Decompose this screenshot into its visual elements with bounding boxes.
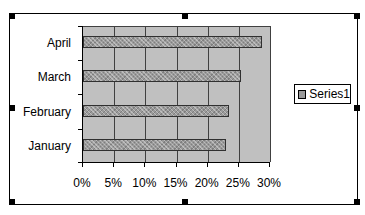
legend-entry-series1: Series1 <box>309 87 350 101</box>
y-axis-tick <box>78 60 82 61</box>
bar-january[interactable] <box>83 139 226 151</box>
plot-area[interactable] <box>82 26 270 163</box>
x-axis-tick-label: 20% <box>195 176 219 190</box>
x-axis-tick <box>238 163 239 167</box>
category-label-january: January <box>28 139 71 153</box>
x-axis-tick-label: 15% <box>163 176 187 190</box>
y-axis-tick <box>78 26 82 27</box>
resize-handle-middle-right[interactable] <box>354 105 360 111</box>
value-gridline <box>270 26 271 162</box>
resize-handle-top-middle[interactable] <box>182 13 188 19</box>
x-axis-tick-label: 5% <box>104 176 121 190</box>
resize-handle-bottom-middle[interactable] <box>182 199 188 205</box>
x-axis-tick <box>82 163 83 167</box>
bar-february[interactable] <box>83 105 229 117</box>
x-axis-tick-label: 30% <box>257 176 281 190</box>
category-label-april: April <box>47 36 71 50</box>
resize-handle-top-left[interactable] <box>9 13 15 19</box>
category-label-march: March <box>38 70 71 84</box>
legend-swatch-icon <box>298 90 306 99</box>
y-axis-tick <box>78 129 82 130</box>
legend[interactable]: Series1 <box>294 84 351 104</box>
x-axis-tick <box>176 163 177 167</box>
resize-handle-bottom-right[interactable] <box>354 199 360 205</box>
bar-march[interactable] <box>83 70 241 82</box>
x-axis-tick <box>269 163 270 167</box>
x-axis-tick <box>113 163 114 167</box>
x-axis-tick <box>207 163 208 167</box>
resize-handle-middle-left[interactable] <box>9 105 15 111</box>
bar-april[interactable] <box>83 36 262 48</box>
x-axis-tick-label: 25% <box>226 176 250 190</box>
x-axis-tick <box>144 163 145 167</box>
y-axis-tick <box>78 94 82 95</box>
x-axis-tick-label: 10% <box>132 176 156 190</box>
resize-handle-bottom-left[interactable] <box>9 199 15 205</box>
x-axis-tick-label: 0% <box>73 176 90 190</box>
category-label-february: February <box>23 105 71 119</box>
resize-handle-top-right[interactable] <box>354 13 360 19</box>
